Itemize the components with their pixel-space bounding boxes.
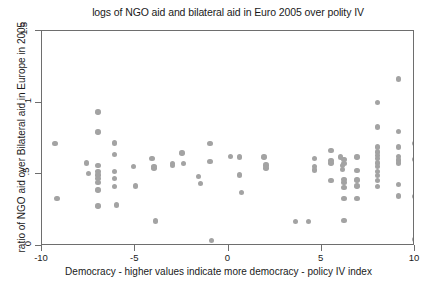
x-tick-label: 5 (301, 252, 341, 263)
data-point (312, 167, 317, 172)
data-point (209, 238, 214, 243)
y-tick-label: 1 (0, 95, 30, 106)
data-point (412, 141, 413, 146)
data-point (207, 141, 212, 146)
data-point (354, 196, 359, 201)
y-axis-title: ratio of NGO aid over Bilateral aid in E… (16, 23, 27, 253)
data-point (341, 218, 346, 223)
data-point (95, 203, 100, 208)
y-tick-label-text: 1.5 (18, 22, 29, 35)
data-point (341, 185, 346, 190)
x-axis-title: Democracy - higher values indicate more … (0, 266, 437, 277)
y-tick-label-text: 1 (22, 98, 33, 103)
data-point (328, 160, 333, 165)
data-point (207, 159, 212, 164)
data-point (328, 178, 333, 183)
data-point (95, 180, 100, 185)
data-point (153, 218, 158, 223)
data-point (396, 160, 401, 165)
data-point (237, 172, 242, 177)
x-tick-mark (321, 245, 322, 251)
y-tick-label: 1.5 (0, 23, 30, 34)
chart-title: logs of NGO aid and bilateral aid in Eur… (41, 6, 415, 18)
data-point (312, 156, 317, 161)
data-point (341, 161, 346, 166)
data-point (112, 184, 117, 189)
data-point (179, 150, 184, 155)
data-point (263, 165, 268, 170)
data-point (306, 219, 311, 224)
data-point (151, 165, 156, 170)
data-point (86, 171, 91, 176)
data-point (170, 163, 175, 168)
data-point (261, 154, 266, 159)
data-point (84, 160, 89, 165)
data-point (375, 184, 380, 189)
plot-area (41, 30, 414, 245)
data-point (95, 109, 100, 114)
data-point (95, 187, 100, 192)
data-point (375, 100, 380, 105)
x-tick-mark (414, 245, 415, 251)
data-point (412, 194, 413, 199)
data-point (396, 144, 401, 149)
y-tick-label: 0 (0, 238, 30, 249)
data-point (354, 177, 359, 182)
data-point (396, 76, 401, 81)
data-point (54, 196, 59, 201)
data-point (149, 156, 154, 161)
x-tick-mark (41, 245, 42, 251)
data-point (412, 237, 413, 242)
y-tick-label: .5 (0, 166, 30, 177)
data-point (354, 183, 359, 188)
x-tick-label: 10 (394, 252, 434, 263)
data-point (133, 183, 138, 188)
data-point (354, 168, 359, 173)
x-tick-label: -5 (114, 252, 154, 263)
data-point (114, 202, 119, 207)
x-tick-mark (228, 245, 229, 251)
data-point (237, 154, 242, 159)
data-point (112, 140, 117, 145)
x-tick-label: 0 (208, 252, 248, 263)
y-tick-label-text: 0 (22, 241, 33, 246)
data-point (196, 174, 201, 179)
data-point (198, 181, 203, 186)
data-point (95, 163, 100, 168)
data-point (52, 141, 57, 146)
data-point (95, 129, 100, 134)
data-point (293, 219, 298, 224)
data-point (412, 157, 413, 162)
x-tick-label: -10 (21, 252, 61, 263)
data-point (396, 129, 401, 134)
data-point (131, 164, 136, 169)
data-point (375, 178, 380, 183)
data-point (375, 124, 380, 129)
data-points-layer (42, 31, 413, 244)
data-point (354, 154, 359, 159)
data-point (112, 152, 117, 157)
data-point (396, 182, 401, 187)
data-point (396, 193, 401, 198)
data-point (112, 176, 117, 181)
data-point (228, 154, 233, 159)
data-point (328, 148, 333, 153)
scatter-chart-figure: logs of NGO aid and bilateral aid in Eur… (0, 0, 437, 291)
data-point (112, 169, 117, 174)
data-point (341, 196, 346, 201)
data-point (239, 190, 244, 195)
x-tick-mark (134, 245, 135, 251)
data-point (181, 161, 186, 166)
y-tick-label-text: .5 (21, 168, 32, 176)
data-point (340, 167, 345, 172)
